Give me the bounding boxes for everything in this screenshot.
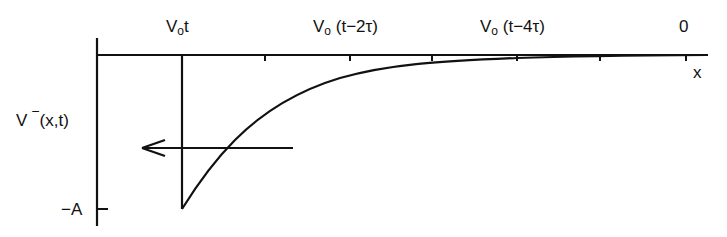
x-axis-label: x [693, 64, 702, 81]
top-label-3: 0 [679, 18, 688, 35]
propagation-arrow-icon [142, 140, 293, 156]
y-axis-label: V−(x,t) [16, 112, 69, 129]
top-label-1: Vo (t−2τ) [313, 18, 378, 35]
decay-curve [182, 55, 708, 209]
top-label-0: Vot [166, 18, 189, 35]
top-label-2: Vo (t−4τ) [480, 18, 545, 35]
y-tick-label: −A [61, 201, 82, 218]
